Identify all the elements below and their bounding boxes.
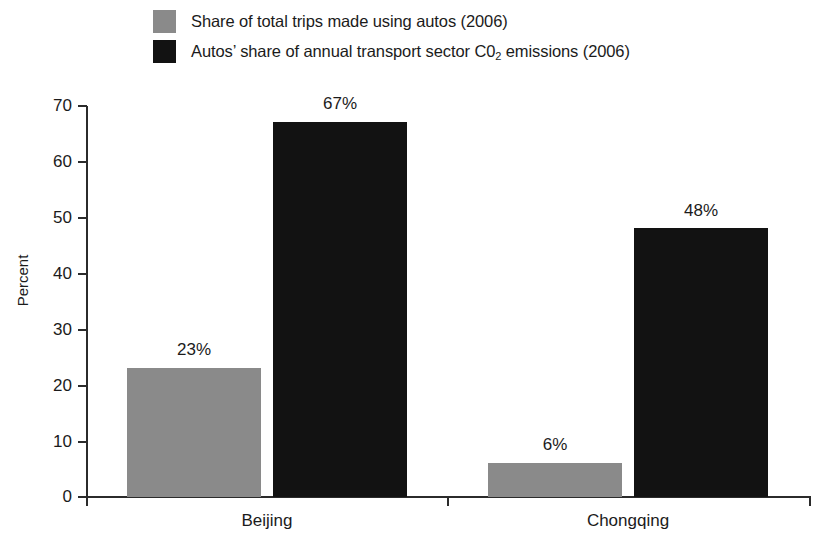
y-axis-label-30: 30 (32, 321, 72, 338)
y-axis-tick-30 (78, 329, 87, 331)
x-axis-tick-end (809, 496, 811, 506)
y-axis-label-20: 20 (32, 377, 72, 394)
y-axis-tick-50 (78, 217, 87, 219)
y-axis-label-40: 40 (32, 265, 72, 282)
bar-chongqing-trips-share (488, 463, 622, 497)
bar-beijing-co2-share (273, 122, 407, 497)
y-axis-tick-20 (78, 385, 87, 387)
y-axis-label-50: 50 (32, 209, 72, 226)
bar-beijing-trips-share (127, 368, 261, 497)
bar-value-chongqing-trips-share: 6% (488, 436, 622, 453)
y-axis-tick-70 (78, 105, 87, 107)
y-axis-line (86, 106, 88, 498)
bar-chart-plot-area: Percent 70 60 50 40 30 20 10 0 23% 67% B… (0, 0, 813, 542)
y-axis-tick-60 (78, 161, 87, 163)
x-axis-tick-start (86, 496, 88, 506)
y-axis-label-0: 0 (32, 488, 72, 505)
x-axis-tick-group-divider (447, 496, 449, 506)
x-axis-category-chongqing: Chongqing (488, 512, 768, 529)
bar-value-beijing-co2-share: 67% (273, 95, 407, 112)
y-axis-label-70: 70 (32, 97, 72, 114)
bar-value-chongqing-co2-share: 48% (634, 202, 768, 219)
y-axis-tick-labels: 70 60 50 40 30 20 10 0 (28, 0, 72, 542)
y-axis-tick-40 (78, 273, 87, 275)
y-axis-label-60: 60 (32, 153, 72, 170)
x-axis-category-beijing: Beijing (127, 512, 407, 529)
bar-value-beijing-trips-share: 23% (127, 341, 261, 358)
y-axis-label-10: 10 (32, 433, 72, 450)
bar-chongqing-co2-share (634, 228, 768, 497)
y-axis-tick-10 (78, 441, 87, 443)
